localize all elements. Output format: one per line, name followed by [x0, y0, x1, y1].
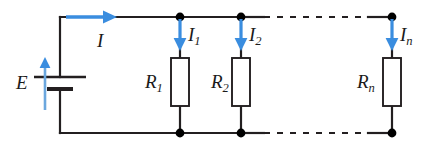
label-branch-current-in-subscript: n: [406, 34, 412, 48]
label-branch-current-i2-subscript: 2: [255, 34, 261, 48]
label-resistor-r2-subscript: 2: [223, 81, 229, 95]
label-branch-current-i1: I1: [188, 25, 201, 47]
junction-node-bottom-r1: [176, 129, 185, 138]
label-branch-current-in: In: [400, 25, 413, 47]
label-resistor-rn-subscript: n: [369, 81, 375, 95]
resistor-body-rn: [383, 58, 401, 106]
source-polarity-arrow-e: [40, 57, 51, 110]
junction-node-bottom-r2: [237, 129, 246, 138]
junction-node-bottom-rn: [388, 129, 397, 138]
label-resistor-rn: Rn: [357, 72, 375, 94]
label-resistor-r1: R1: [145, 72, 163, 94]
current-arrow-i2: [235, 19, 248, 51]
label-resistor-r2-base: R: [211, 71, 223, 92]
label-total-current-i: I: [97, 31, 103, 50]
resistor-body-r1: [171, 58, 189, 106]
label-resistor-r1-subscript: 1: [157, 81, 163, 95]
label-resistor-r2: R2: [211, 72, 229, 94]
label-resistor-r1-base: R: [145, 71, 157, 92]
resistor-body-r2: [232, 58, 250, 106]
label-source-e: E: [16, 73, 28, 92]
parallel-resistor-circuit-figure: E I I1 I2 In R1 R2 Rn: [0, 0, 430, 163]
current-arrow-in: [386, 19, 399, 51]
label-resistor-rn-base: R: [357, 71, 369, 92]
current-arrow-i1: [174, 19, 187, 51]
label-branch-current-i1-subscript: 1: [194, 34, 200, 48]
current-arrow-i: [66, 11, 117, 24]
label-branch-current-i2: I2: [249, 25, 262, 47]
